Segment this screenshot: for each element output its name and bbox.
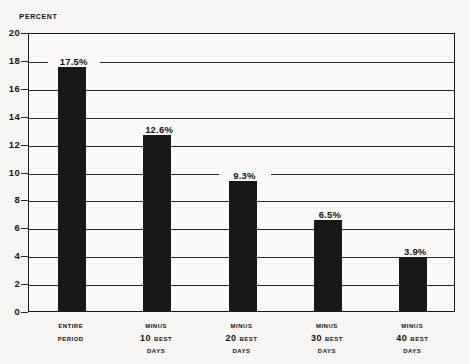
category-label-line: Days: [284, 344, 369, 357]
y-axis-tick-mark: [21, 117, 28, 118]
bar-value-label: 9.3%: [219, 170, 271, 181]
y-axis-tick-label: 8: [0, 194, 20, 205]
bar-value-label: 6.5%: [304, 209, 356, 220]
bar: [58, 67, 86, 311]
category-label-line: Entire: [28, 319, 113, 332]
y-axis-tick-mark: [21, 312, 28, 313]
bar: [314, 220, 342, 311]
x-axis-category-label: Minus10 BestDays: [113, 319, 198, 357]
y-axis-tick-label: 12: [0, 139, 20, 150]
category-label-line: Minus: [284, 319, 369, 332]
y-axis-tick-mark: [21, 61, 28, 62]
category-label-line: Days: [113, 344, 198, 357]
category-label-line: 20 Best: [199, 332, 284, 345]
y-axis-tick-label: 2: [0, 278, 20, 289]
bar-value-label: 17.5%: [48, 56, 100, 67]
y-axis-tick-mark: [21, 228, 28, 229]
bar: [229, 181, 257, 311]
y-axis-title: Percent: [19, 9, 57, 21]
bar-value-label: 12.6%: [133, 124, 185, 135]
category-label-line: 10 Best: [113, 332, 198, 345]
x-axis-category-label: EntirePeriod: [28, 319, 113, 344]
category-label-line: Minus: [370, 319, 455, 332]
gridline: [29, 146, 454, 147]
plot-area: 17.5%12.6%9.3%6.5%3.9%: [28, 33, 455, 312]
y-axis-tick-label: 14: [0, 111, 20, 122]
x-axis-category-label: Minus30 BestDays: [284, 319, 369, 357]
y-axis-tick-mark: [21, 33, 28, 34]
y-axis-tick-mark: [21, 256, 28, 257]
bar: [143, 135, 171, 311]
category-label-line: Days: [370, 344, 455, 357]
category-label-line: Period: [28, 332, 113, 345]
x-axis-category-label: Minus20 BestDays: [199, 319, 284, 357]
category-label-line: 40 Best: [370, 332, 455, 345]
y-axis-tick-label: 18: [0, 55, 20, 66]
y-axis-tick-mark: [21, 89, 28, 90]
y-axis-tick-mark: [21, 200, 28, 201]
bar: [399, 257, 427, 311]
y-axis-tick-label: 16: [0, 83, 20, 94]
y-axis-tick-mark: [21, 145, 28, 146]
y-axis-tick-label: 20: [0, 27, 20, 38]
category-label-line: Minus: [113, 319, 198, 332]
x-axis-category-label: Minus40 BestDays: [370, 319, 455, 357]
gridline: [29, 118, 454, 119]
category-label-line: 30 Best: [284, 332, 369, 345]
y-axis-tick-mark: [21, 284, 28, 285]
y-axis-tick-label: 4: [0, 250, 20, 261]
chart-page: Percent 20181614121086420 17.5%12.6%9.3%…: [0, 0, 469, 364]
bar-value-label: 3.9%: [389, 246, 441, 257]
y-axis-tick-label: 0: [0, 306, 20, 317]
category-label-line: Minus: [199, 319, 284, 332]
gridline: [29, 90, 454, 91]
y-axis-tick-label: 6: [0, 222, 20, 233]
category-label-line: Days: [199, 344, 284, 357]
y-axis-tick-mark: [21, 173, 28, 174]
y-axis-tick-label: 10: [0, 167, 20, 178]
